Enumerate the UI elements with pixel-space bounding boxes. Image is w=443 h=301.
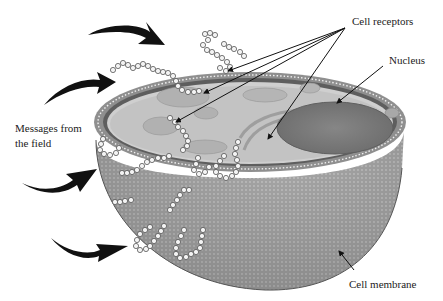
curved-arrow-icon <box>22 169 97 193</box>
cell-diagram: Cell receptors Nucleus Messages from the… <box>0 0 443 301</box>
pointer-receptor-1 <box>228 28 345 71</box>
curved-arrow-icon <box>51 238 128 262</box>
cell-illustration <box>0 0 443 301</box>
label-cell-membrane: Cell membrane <box>349 278 417 291</box>
curved-arrow-icon <box>44 72 116 105</box>
nucleus <box>277 102 393 154</box>
curved-arrow-icon <box>88 22 165 45</box>
cell-top-surface <box>94 72 406 172</box>
label-messages-line1: Messages from <box>15 122 82 135</box>
label-messages-line2: the field <box>15 137 51 150</box>
label-nucleus: Nucleus <box>389 54 425 67</box>
label-cell-receptors: Cell receptors <box>352 15 413 28</box>
